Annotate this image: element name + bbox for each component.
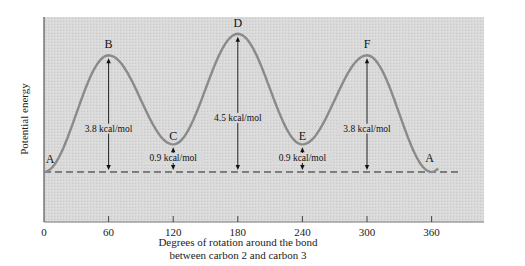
point-label-a: A [425,151,434,165]
x-tick-label: 60 [103,226,115,238]
x-tick-label: 360 [423,226,440,238]
point-label-f: F [364,37,371,51]
x-tick-label: 300 [359,226,376,238]
point-label-b: B [105,37,113,51]
energy-gap-label: 0.9 kcal/mol [279,153,327,163]
energy-diagram: 060120180240300360 3.8 kcal/mol0.9 kcal/… [0,0,525,266]
energy-gap-label: 4.5 kcal/mol [214,113,262,123]
point-label-d: D [233,16,242,30]
point-label-e: E [299,129,306,143]
point-label-c: C [169,129,177,143]
y-axis-title: Potential energy [18,83,30,155]
energy-gap-label: 3.8 kcal/mol [343,124,391,134]
x-axis-title-line2: between carbon 2 and carbon 3 [169,249,307,261]
x-tick-label: 0 [41,226,47,238]
energy-gap-label: 3.8 kcal/mol [85,124,133,134]
point-label-a: A [46,152,55,166]
energy-gap-label: 0.9 kcal/mol [149,153,197,163]
x-axis-title-line1: Degrees of rotation around the bond [158,236,318,248]
